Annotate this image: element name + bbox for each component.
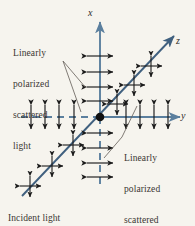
annotation-top-left-line-2: polarized (13, 79, 49, 89)
annotation-bottom-right-line-2: polarized (124, 184, 160, 194)
annotation-bottom-right-line-1: Linearly (124, 153, 160, 163)
annotation-bottom-right-line-3: scattered (124, 215, 160, 225)
annotation-top-left-line-3: scattered (13, 110, 49, 120)
annotation-top-left: Linearly polarized scattered light (13, 27, 49, 173)
axis-label-z: z (176, 35, 180, 46)
axis-label-x: x (88, 7, 92, 18)
leader-lines-top-left (63, 61, 86, 112)
axis-label-y: y (181, 110, 185, 121)
leader-line-to-x-axis-markers (63, 61, 86, 88)
scattering-polarization-figure: x y z Linearly polarized scattered light… (0, 0, 195, 226)
annotation-top-left-line-1: Linearly (13, 48, 49, 58)
annotation-top-left-line-4: light (13, 141, 49, 151)
annotation-bottom-left: Incident light unpolarized (8, 192, 62, 226)
annotation-bottom-left-line-1: Incident light (8, 213, 62, 223)
annotation-bottom-right: Linearly polarized scattered light (124, 132, 160, 226)
origin-dot (96, 113, 105, 122)
leader-line-to-y-axis-left-markers (63, 61, 81, 112)
